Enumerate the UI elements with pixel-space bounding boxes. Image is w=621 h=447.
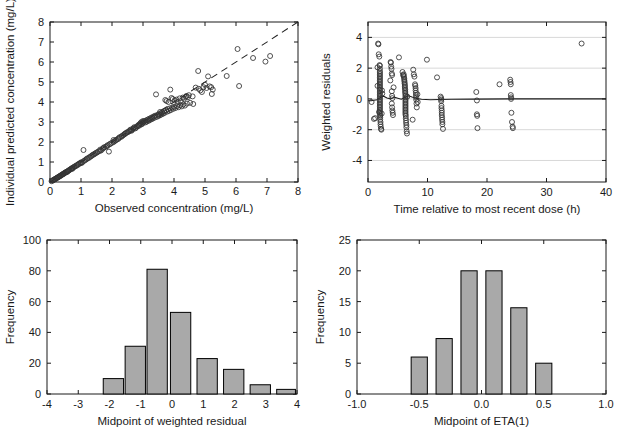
y-axis-title: Individual predicted concentration (mg/L… (4, 0, 16, 206)
x-tick-label: 0 (47, 185, 53, 197)
data-point (388, 78, 393, 83)
plot-frame (357, 240, 606, 394)
histogram-bar (197, 359, 217, 394)
histogram-bar (536, 363, 552, 394)
panel-eta1-histogram: -1.0-0.50.00.51.00510152025Midpoint of E… (310, 224, 621, 447)
histogram-bar (511, 308, 527, 394)
data-point (191, 102, 196, 107)
y-tick-label: 60 (29, 296, 41, 308)
y-tick-label: 1 (38, 156, 44, 168)
x-axis-title: Observed concentration (mg/L) (95, 202, 254, 214)
panel-observed-vs-predicted: 012345678012345678Observed concentration… (0, 0, 311, 225)
data-point (188, 100, 193, 105)
data-point (81, 148, 86, 153)
data-point (509, 110, 514, 115)
x-tick-label: 2 (231, 398, 237, 410)
x-axis-title: Midpoint of weighted residual (98, 415, 247, 427)
x-tick-label: 0 (365, 186, 371, 198)
data-point (168, 87, 173, 92)
x-tick-label: 4 (294, 398, 300, 410)
histogram-bar (250, 385, 270, 394)
y-tick-label: 8 (38, 16, 44, 28)
y-tick-label: 7 (38, 36, 44, 48)
histogram-bar (125, 346, 145, 394)
x-tick-label: -4 (42, 398, 52, 410)
data-point (424, 57, 429, 62)
x-tick-label: 10 (421, 186, 433, 198)
histogram-bar (277, 389, 296, 394)
x-tick-label: 1 (200, 398, 206, 410)
histogram-bar (486, 271, 502, 394)
x-tick-label: 6 (233, 185, 239, 197)
x-tick-label: 0 (169, 398, 175, 410)
y-tick-label: 20 (339, 265, 351, 277)
y-tick-label: 100 (23, 234, 41, 246)
data-point (579, 41, 584, 46)
y-tick-label: 0 (345, 388, 351, 400)
y-tick-label: -2 (352, 124, 362, 136)
data-point (509, 120, 514, 125)
y-tick-label: 15 (339, 296, 351, 308)
y-tick-label: 4 (38, 96, 44, 108)
histogram-bars (411, 271, 552, 394)
y-tick-label: 2 (356, 62, 362, 74)
data-point (268, 54, 273, 59)
x-tick-label: 1.0 (598, 398, 613, 410)
y-tick-label: 0 (38, 176, 44, 188)
y-tick-label: 0 (356, 93, 362, 105)
y-tick-label: 2 (38, 136, 44, 148)
y-tick-label: 40 (29, 326, 41, 338)
x-tick-label: 40 (600, 186, 612, 198)
x-tick-label: -2 (105, 398, 115, 410)
y-axis-title: Frequency (4, 290, 16, 345)
data-point (396, 55, 401, 60)
y-tick-label: 10 (339, 326, 351, 338)
x-tick-label: -3 (73, 398, 83, 410)
x-tick-label: -1 (136, 398, 146, 410)
y-axis-title: Frequency (314, 290, 326, 345)
x-tick-label: 3 (263, 398, 269, 410)
residual-plot-canvas: 010203040-4-2024Time relative to most re… (310, 0, 621, 225)
data-point (106, 149, 111, 154)
histogram-bars (103, 269, 295, 394)
data-point (251, 56, 256, 61)
scatter-plot-canvas: 012345678012345678Observed concentration… (0, 0, 311, 225)
x-tick-label: 7 (264, 185, 270, 197)
x-tick-label: 0.0 (474, 398, 489, 410)
x-tick-label: 20 (481, 186, 493, 198)
histogram-bar (224, 369, 244, 394)
x-tick-label: 5 (202, 185, 208, 197)
y-tick-label: 6 (38, 56, 44, 68)
histogram-bar (411, 357, 427, 394)
y-axis-title: Weighted residuals (320, 53, 332, 151)
y-tick-label: 4 (356, 31, 362, 43)
data-point (497, 82, 502, 87)
weighted-residual-histogram-canvas: -4-3-2-101234020406080100Midpoint of wei… (0, 224, 311, 447)
y-tick-label: 80 (29, 265, 41, 277)
data-point (474, 90, 479, 95)
data-point (435, 75, 440, 80)
data-point (206, 74, 211, 79)
data-point (410, 117, 415, 122)
x-tick-label: -0.5 (410, 398, 429, 410)
histogram-bar (103, 379, 123, 394)
x-tick-label: 1 (78, 185, 84, 197)
data-point (154, 92, 159, 97)
x-axis-title: Midpoint of ETA(1) (434, 415, 529, 427)
x-tick-label: 4 (171, 185, 177, 197)
x-tick-label: 3 (140, 185, 146, 197)
histogram-bar (461, 271, 477, 394)
panel-weighted-residual-histogram: -4-3-2-101234020406080100Midpoint of wei… (0, 224, 311, 447)
x-tick-label: 8 (295, 185, 301, 197)
histogram-bar (170, 312, 190, 394)
y-tick-label: -4 (352, 154, 362, 166)
data-point (237, 84, 242, 89)
y-tick-label: 0 (35, 388, 41, 400)
y-tick-label: 5 (345, 357, 351, 369)
data-point (263, 59, 268, 64)
y-tick-label: 20 (29, 357, 41, 369)
residual-points (369, 41, 584, 136)
x-axis-title: Time relative to most recent dose (h) (394, 203, 581, 215)
data-point (196, 69, 201, 74)
x-tick-label: 30 (540, 186, 552, 198)
